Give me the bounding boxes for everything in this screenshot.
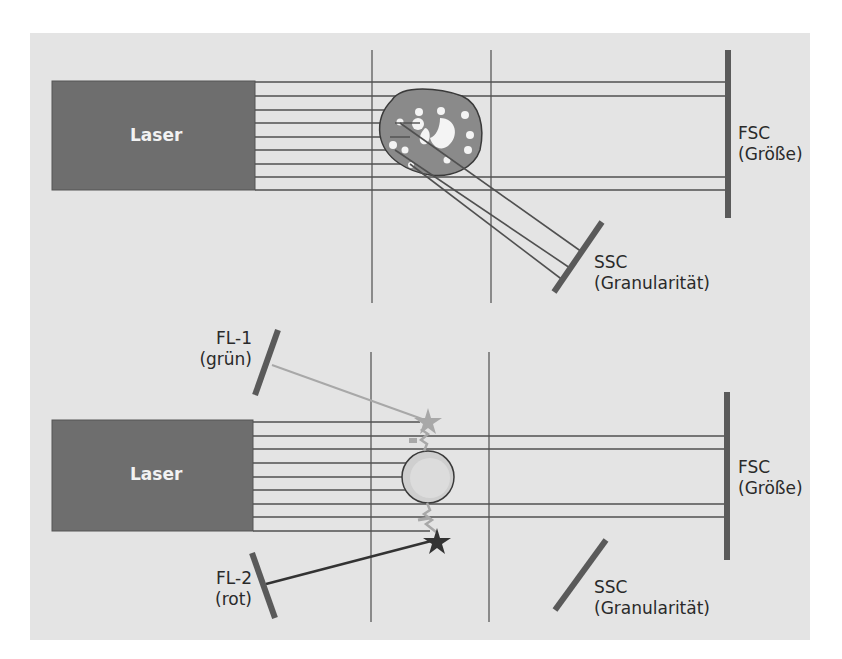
fl1-label-line2: (grün) bbox=[196, 349, 252, 370]
laser-label-bottom: Laser bbox=[130, 464, 182, 484]
fsc-label-line1: FSC bbox=[738, 123, 803, 144]
fl2-label: FL-2 (rot) bbox=[196, 568, 252, 610]
flow-cytometry-diagram bbox=[0, 0, 842, 659]
ssc-label-line1: SSC bbox=[594, 252, 710, 273]
green-fluorophore-star-icon bbox=[414, 408, 442, 434]
fl2-label-line2: (rot) bbox=[196, 589, 252, 610]
ssc-label-bottom: SSC (Granularität) bbox=[594, 577, 710, 619]
ssc-label-line1: SSC bbox=[594, 577, 710, 598]
fsc-label-line1: FSC bbox=[738, 457, 803, 478]
antibody-labeled-cell-icon bbox=[402, 424, 454, 532]
fl2-emission-ray bbox=[266, 540, 435, 584]
fl2-detector bbox=[252, 553, 275, 618]
fsc-label-top: FSC (Größe) bbox=[738, 123, 803, 165]
fsc-label-bottom: FSC (Größe) bbox=[738, 457, 803, 499]
laser-label-top: Laser bbox=[130, 125, 182, 145]
ssc-label-line2: (Granularität) bbox=[594, 273, 710, 294]
fsc-label-line2: (Größe) bbox=[738, 144, 803, 165]
fsc-label-line2: (Größe) bbox=[738, 478, 803, 499]
ssc-label-top: SSC (Granularität) bbox=[594, 252, 710, 294]
fl2-label-line1: FL-2 bbox=[196, 568, 252, 589]
fl1-label-line1: FL-1 bbox=[196, 328, 252, 349]
ssc-label-line2: (Granularität) bbox=[594, 598, 710, 619]
fl1-emission-ray bbox=[272, 365, 425, 420]
fl1-label: FL-1 (grün) bbox=[196, 328, 252, 370]
granular-cell-icon bbox=[380, 89, 482, 176]
fl1-detector bbox=[255, 330, 278, 395]
